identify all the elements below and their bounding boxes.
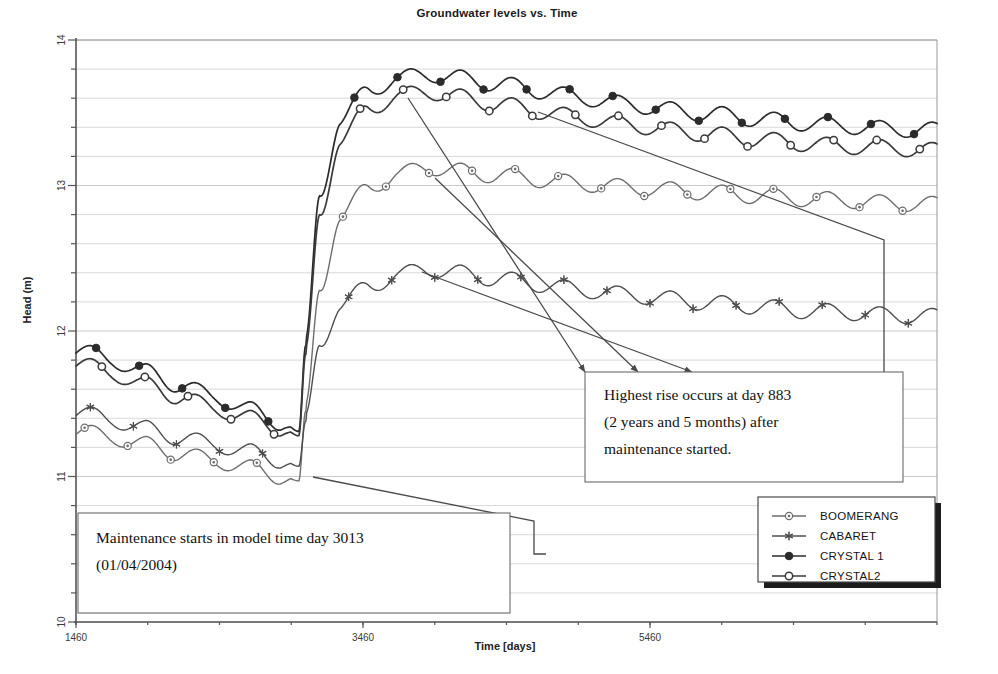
chart-figure: Groundwater levels vs. Time 101112131414… bbox=[0, 0, 998, 674]
y-tick-label: 13 bbox=[56, 180, 67, 192]
data-marker-filled-circle bbox=[178, 385, 186, 393]
data-marker-circle-dot bbox=[512, 165, 519, 172]
data-marker-filled-circle bbox=[781, 115, 789, 123]
data-marker-circle-dot bbox=[339, 213, 346, 220]
x-tick-label: 1460 bbox=[65, 632, 88, 643]
data-marker-circle-dot bbox=[81, 424, 88, 431]
legend-item-crystal-1[interactable]: CRYSTAL 1 bbox=[772, 550, 884, 562]
data-marker-circle-dot bbox=[770, 185, 777, 192]
data-marker-circle-dot bbox=[598, 185, 605, 192]
data-marker-circle-dot bbox=[425, 169, 432, 176]
data-marker-open-circle bbox=[184, 393, 191, 400]
data-marker-open-circle bbox=[916, 145, 923, 152]
data-marker-circle-dot bbox=[382, 183, 389, 190]
data-marker-filled-circle bbox=[523, 86, 531, 94]
legend-label: CABARET bbox=[820, 530, 876, 542]
chart-legend[interactable]: BOOMERANGCABARETCRYSTAL 1CRYSTAL2 bbox=[758, 497, 941, 588]
annotation-peak-line3: maintenance started. bbox=[604, 440, 731, 457]
data-marker-filled-circle bbox=[695, 117, 703, 125]
data-marker-circle-dot bbox=[813, 193, 820, 200]
data-marker-open-circle bbox=[227, 416, 234, 423]
chart-title: Groundwater levels vs. Time bbox=[416, 7, 577, 19]
annotation-maintenance-line1: Maintenance starts in model time day 301… bbox=[96, 529, 364, 546]
data-marker-open-circle bbox=[658, 122, 665, 129]
annotation-maintenance: Maintenance starts in model time day 301… bbox=[78, 513, 510, 613]
data-marker-open-circle bbox=[787, 142, 794, 149]
data-marker-filled-circle bbox=[824, 113, 832, 121]
data-marker-circle-dot bbox=[555, 173, 562, 180]
legend-item-crystal2[interactable]: CRYSTAL2 bbox=[772, 570, 881, 582]
data-marker-circle-dot bbox=[727, 185, 734, 192]
data-marker-circle-dot bbox=[468, 167, 475, 174]
data-marker-filled-circle bbox=[221, 404, 229, 412]
legend-label: BOOMERANG bbox=[820, 510, 899, 522]
data-marker-filled-circle bbox=[785, 552, 793, 560]
data-marker-circle-dot bbox=[899, 207, 906, 214]
data-marker-open-circle bbox=[98, 363, 105, 370]
data-marker-asterisk bbox=[646, 299, 653, 307]
data-marker-open-circle bbox=[141, 373, 148, 380]
annotation-maintenance-line2: (01/04/2004) bbox=[96, 556, 177, 574]
data-marker-filled-circle bbox=[609, 92, 617, 100]
data-marker-open-circle bbox=[399, 86, 406, 93]
y-tick-label: 12 bbox=[56, 325, 67, 337]
legend-label: CRYSTAL2 bbox=[820, 570, 881, 582]
data-marker-filled-circle bbox=[867, 120, 875, 128]
data-marker-filled-circle bbox=[566, 85, 574, 93]
x-tick-label: 3460 bbox=[352, 632, 375, 643]
data-marker-open-circle bbox=[785, 572, 792, 579]
data-marker-open-circle bbox=[744, 143, 751, 150]
data-marker-open-circle bbox=[830, 136, 837, 143]
annotation-peak: Highest rise occurs at day 883 (2 years … bbox=[585, 372, 903, 482]
data-marker-open-circle bbox=[486, 107, 493, 114]
annotation-leaders bbox=[313, 98, 896, 554]
leader-cabaret bbox=[422, 272, 692, 372]
data-marker-asterisk bbox=[603, 286, 610, 294]
data-marker-circle-dot bbox=[641, 192, 648, 199]
legend-label: CRYSTAL 1 bbox=[820, 550, 884, 562]
y-tick-label: 11 bbox=[56, 471, 67, 482]
data-marker-circle-dot bbox=[124, 442, 131, 449]
data-marker-filled-circle bbox=[437, 78, 445, 86]
data-marker-circle-dot bbox=[785, 512, 792, 519]
data-marker-filled-circle bbox=[910, 130, 918, 138]
data-marker-filled-circle bbox=[351, 94, 359, 102]
data-marker-asterisk bbox=[689, 305, 696, 313]
groundwater-chart-svg: Groundwater levels vs. Time 101112131414… bbox=[0, 0, 998, 674]
data-marker-circle-dot bbox=[684, 191, 691, 198]
y-axis-label: Head (m) bbox=[21, 276, 33, 323]
data-marker-open-circle bbox=[873, 136, 880, 143]
data-marker-circle-dot bbox=[856, 204, 863, 211]
x-tick-label: 5460 bbox=[639, 632, 662, 643]
x-axis-label: Time [days] bbox=[475, 640, 536, 652]
data-marker-asterisk bbox=[130, 422, 137, 430]
annotation-peak-line2: (2 years and 5 months) after bbox=[604, 413, 779, 431]
data-marker-filled-circle bbox=[394, 73, 402, 81]
data-marker-circle-dot bbox=[210, 459, 217, 466]
data-marker-open-circle bbox=[443, 93, 450, 100]
leader-boomerang bbox=[435, 178, 638, 372]
data-marker-filled-circle bbox=[92, 344, 100, 352]
data-marker-filled-circle bbox=[652, 106, 660, 114]
data-marker-open-circle bbox=[701, 135, 708, 142]
data-marker-open-circle bbox=[529, 112, 536, 119]
data-marker-circle-dot bbox=[253, 459, 260, 466]
y-tick-label: 10 bbox=[56, 616, 67, 628]
annotation-peak-line1: Highest rise occurs at day 883 bbox=[604, 386, 791, 403]
data-marker-filled-circle bbox=[135, 362, 143, 370]
data-marker-open-circle bbox=[356, 105, 363, 112]
data-marker-filled-circle bbox=[480, 86, 488, 94]
data-marker-open-circle bbox=[615, 112, 622, 119]
data-marker-open-circle bbox=[270, 431, 277, 438]
y-tick-label: 14 bbox=[56, 34, 67, 46]
data-marker-filled-circle bbox=[738, 119, 746, 127]
data-marker-open-circle bbox=[572, 111, 579, 118]
data-marker-circle-dot bbox=[167, 456, 174, 463]
